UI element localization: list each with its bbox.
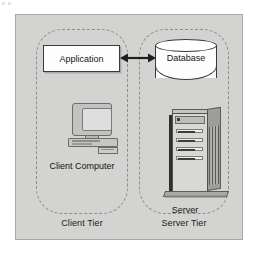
- computer-case-slot: [72, 140, 100, 142]
- server-drive-detail: [178, 140, 195, 142]
- database-label: Database: [155, 53, 217, 63]
- application-label: Application: [59, 54, 103, 64]
- application-database-arrow: [120, 51, 156, 65]
- desktop-computer-icon: [68, 103, 124, 155]
- computer-case-slot: [72, 143, 92, 145]
- server-front-edge: [169, 115, 172, 193]
- client-tier-label: Client Tier: [36, 218, 128, 228]
- server-tower-icon: [164, 105, 230, 201]
- client-computer-label: Client Computer: [34, 161, 130, 171]
- server-power-led: [177, 118, 180, 121]
- computer-keyboard-detail: [101, 149, 114, 150]
- server-vents: [209, 125, 219, 185]
- monitor-shell: [72, 103, 112, 136]
- server-base-shadow: [165, 195, 226, 198]
- server-front-panel: [172, 113, 208, 195]
- server-drive-detail: [178, 149, 195, 151]
- application-node: Application: [43, 45, 120, 72]
- server-drive-detail: [178, 158, 195, 160]
- diagram-frame: Application Database Client Computer: [15, 14, 243, 240]
- scan-artifact: [8, 2, 11, 5]
- double-arrow-icon: [120, 51, 156, 65]
- server-label: Server: [144, 205, 226, 215]
- server-tier-label: Server Tier: [139, 218, 229, 228]
- monitor-screen: [82, 108, 112, 131]
- database-node: Database: [155, 39, 217, 83]
- server-drive-detail: [178, 131, 195, 133]
- scan-artifact: [2, 2, 5, 5]
- database-cylinder-top: [155, 39, 217, 52]
